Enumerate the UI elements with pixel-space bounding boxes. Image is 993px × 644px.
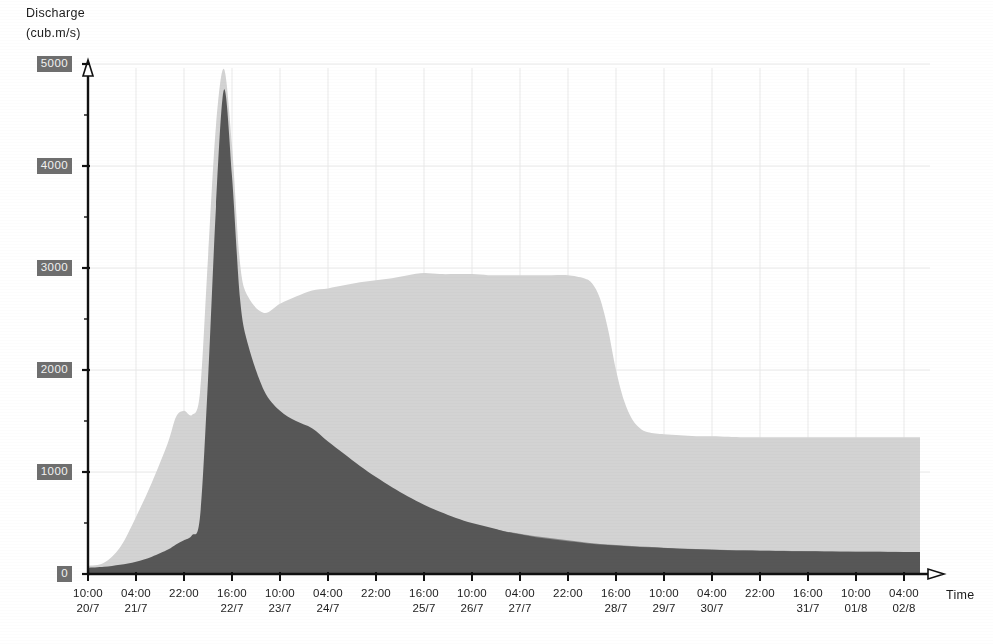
x-tick-time: 22:00 [169, 586, 199, 601]
x-tick-date: 24/7 [313, 601, 343, 616]
y-axis-tick-label: 5000 [37, 56, 72, 72]
x-axis-tick-label: 16:0031/7 [793, 586, 823, 616]
series-group [88, 69, 920, 574]
plot-area [0, 0, 993, 644]
x-axis-tick-label: 16:0028/7 [601, 586, 631, 616]
x-tick-time: 22:00 [361, 586, 391, 601]
x-axis-arrowhead [928, 569, 944, 579]
x-axis-tick-label: 22:00 [745, 586, 775, 601]
y-axis-tick-label: 2000 [37, 362, 72, 378]
x-tick-time: 16:00 [409, 586, 439, 601]
x-tick-time: 16:00 [793, 586, 823, 601]
x-tick-date: 20/7 [73, 601, 103, 616]
x-tick-date: 22/7 [217, 601, 247, 616]
x-axis-tick-label: 04:0024/7 [313, 586, 343, 616]
y-axis-tick-label: 4000 [37, 158, 72, 174]
x-tick-time: 04:00 [121, 586, 151, 601]
x-tick-date: 26/7 [457, 601, 487, 616]
x-tick-date: 23/7 [265, 601, 295, 616]
x-tick-time: 04:00 [313, 586, 343, 601]
x-tick-time: 10:00 [649, 586, 679, 601]
x-axis-tick-label: 10:0029/7 [649, 586, 679, 616]
x-tick-time: 04:00 [505, 586, 535, 601]
y-axis-tick-label: 0 [57, 566, 72, 582]
x-tick-time: 10:00 [457, 586, 487, 601]
x-tick-time: 16:00 [601, 586, 631, 601]
x-tick-date: 01/8 [841, 601, 871, 616]
x-tick-date: 30/7 [697, 601, 727, 616]
x-axis-tick-label: 22:00 [553, 586, 583, 601]
x-tick-date: 21/7 [121, 601, 151, 616]
x-axis-tick-label: 04:0030/7 [697, 586, 727, 616]
x-tick-time: 10:00 [73, 586, 103, 601]
x-tick-date: 02/8 [889, 601, 919, 616]
x-tick-time: 10:00 [265, 586, 295, 601]
x-tick-date: 29/7 [649, 601, 679, 616]
x-tick-time: 16:00 [217, 586, 247, 601]
x-axis-tick-label: 04:0027/7 [505, 586, 535, 616]
y-axis-tick-label: 1000 [37, 464, 72, 480]
x-tick-date: 27/7 [505, 601, 535, 616]
x-axis-tick-label: 10:0001/8 [841, 586, 871, 616]
x-tick-date: 25/7 [409, 601, 439, 616]
x-axis-tick-label: 10:0020/7 [73, 586, 103, 616]
y-axis-arrowhead [83, 60, 93, 76]
x-axis-tick-label: 04:0002/8 [889, 586, 919, 616]
x-axis-tick-label: 16:0022/7 [217, 586, 247, 616]
y-axis-tick-label: 3000 [37, 260, 72, 276]
x-tick-time: 22:00 [745, 586, 775, 601]
x-axis-tick-label: 10:0026/7 [457, 586, 487, 616]
x-axis-tick-label: 16:0025/7 [409, 586, 439, 616]
x-tick-time: 10:00 [841, 586, 871, 601]
discharge-hydrograph-chart: Discharge (cub.m/s) Time 010002000300040… [0, 0, 993, 644]
x-axis-tick-label: 22:00 [169, 586, 199, 601]
x-tick-time: 04:00 [889, 586, 919, 601]
x-tick-time: 22:00 [553, 586, 583, 601]
x-axis-tick-label: 04:0021/7 [121, 586, 151, 616]
x-tick-date: 28/7 [601, 601, 631, 616]
x-axis-tick-label: 22:00 [361, 586, 391, 601]
x-tick-date: 31/7 [793, 601, 823, 616]
x-axis-tick-label: 10:0023/7 [265, 586, 295, 616]
x-tick-time: 04:00 [697, 586, 727, 601]
